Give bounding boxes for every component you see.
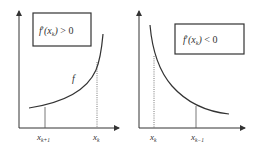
newton-method-diagram: f′(xk) > 0 f xk+1 xk f′(xk) < 0 xk xk−1 [0,0,256,148]
condition-label: f′(xk) > 0 [39,25,73,37]
panel-increasing: f′(xk) > 0 f xk+1 xk [19,11,119,143]
increasing-curve [29,34,103,108]
tick-label-xk: xk [149,132,157,143]
tick-label-xk1: xk+1 [36,132,50,143]
tick-label-xk-1: xk−1 [190,132,204,143]
panel-decreasing: f′(xk) < 0 xk xk−1 [139,11,245,143]
curve-label: f [72,73,76,84]
condition-label: f′(xk) < 0 [183,34,217,46]
tick-label-xk: xk [92,132,100,143]
